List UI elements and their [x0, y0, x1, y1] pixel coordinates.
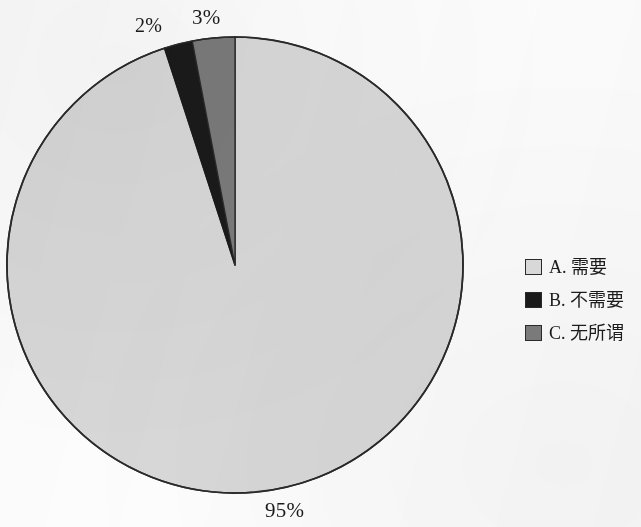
legend-swatch-b-icon [525, 292, 542, 308]
slice-c-percent-label: 3% [192, 5, 221, 30]
legend-swatch-a-icon [525, 259, 542, 275]
legend-label-b: B. 不需要 [549, 291, 624, 309]
legend-item-c[interactable]: C. 无所谓 [525, 316, 641, 349]
pie-chart-figure: 2% 3% 95% A. 需要 B. 不需要 C. 无所谓 [0, 0, 641, 527]
legend-label-c: C. 无所谓 [549, 324, 624, 342]
legend-item-b[interactable]: B. 不需要 [525, 283, 641, 316]
slice-b-percent-label: 2% [135, 14, 162, 37]
chart-legend: A. 需要 B. 不需要 C. 无所谓 [525, 250, 641, 349]
legend-item-a[interactable]: A. 需要 [525, 250, 641, 283]
legend-swatch-c-icon [525, 325, 542, 341]
slice-a-percent-label: 95% [265, 498, 304, 523]
legend-label-a: A. 需要 [549, 258, 607, 276]
